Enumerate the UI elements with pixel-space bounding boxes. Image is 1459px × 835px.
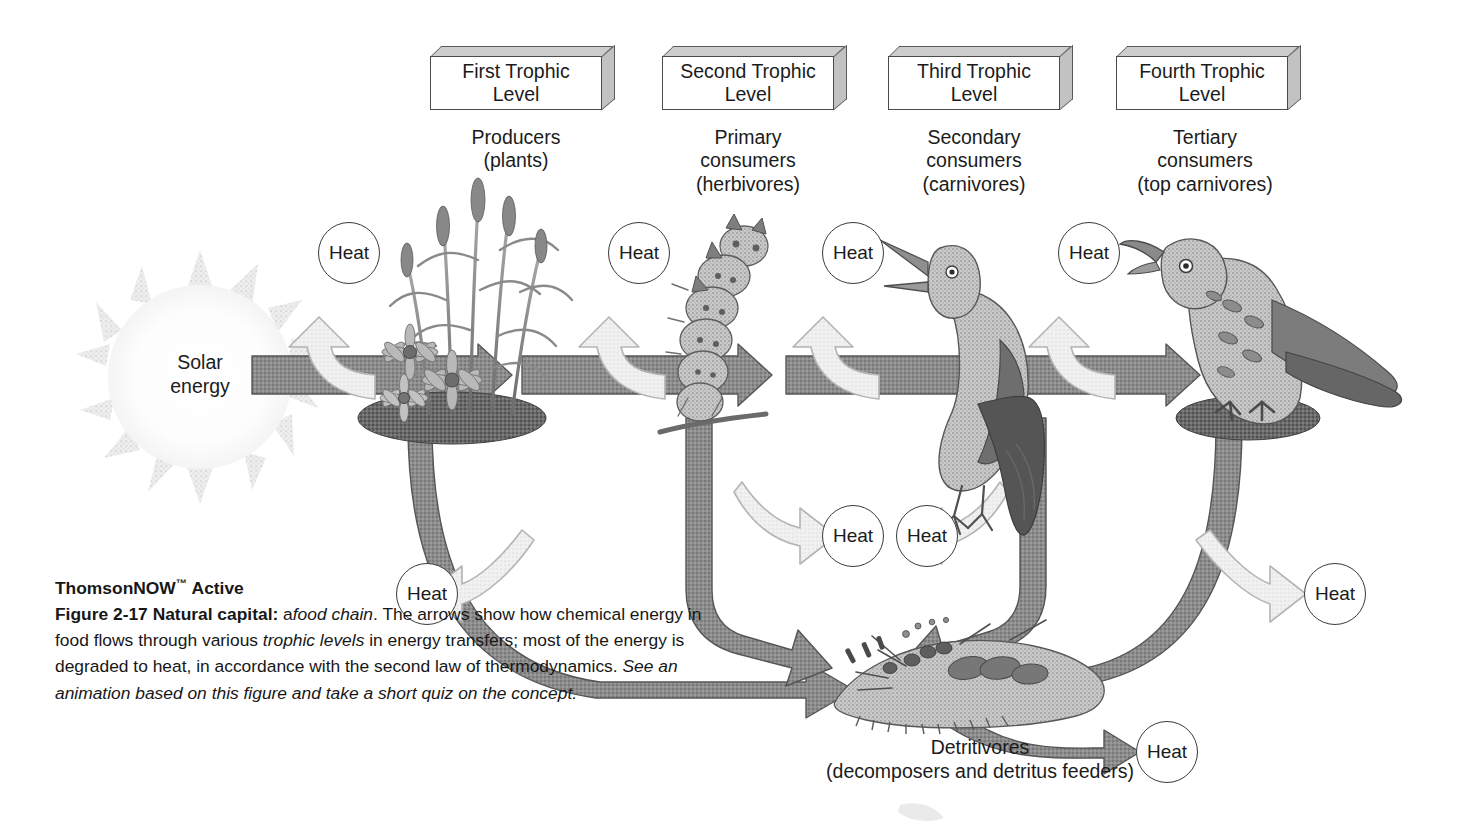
level-caption-line1: Primary: [638, 126, 858, 149]
caption-italic-trophic-levels: trophic levels: [263, 630, 365, 650]
trophic-box-line1: Third Trophic: [917, 60, 1031, 82]
heat-label: Heat: [619, 242, 659, 264]
thomsonnow-brand: ThomsonNOW: [55, 578, 176, 598]
heat-label: Heat: [1315, 583, 1355, 605]
level-caption-line1: Tertiary: [1090, 126, 1320, 149]
level-caption-producers: Producers (plants): [406, 126, 626, 173]
trophic-box-front-face: Fourth Trophic Level: [1116, 56, 1288, 110]
level-caption-line2: consumers: [864, 149, 1084, 172]
trademark-mark: ™: [176, 577, 187, 589]
heat-label: Heat: [833, 525, 873, 547]
trophic-box-side-face: [1060, 45, 1073, 110]
trophic-box-line1: First Trophic: [462, 60, 569, 82]
detritivores-label: Detritivores (decomposers and detritus f…: [760, 736, 1200, 784]
detritivores-line1: Detritivores: [760, 736, 1200, 760]
level-caption-line3: (carnivores): [864, 173, 1084, 196]
trophic-box-front-face: First Trophic Level: [430, 56, 602, 110]
solar-energy-line2: energy: [130, 375, 270, 399]
heat-bubble-detritus-left: Heat: [822, 505, 884, 567]
level-caption-line3: (herbivores): [638, 173, 858, 196]
heat-bubble-detritus-right: Heat: [896, 505, 958, 567]
level-caption-line2: consumers: [638, 149, 858, 172]
food-chain-figure: First Trophic Level Second Trophic Level…: [0, 0, 1459, 835]
figure-number: Figure 2-17: [55, 604, 148, 624]
heat-bubble-producers: Heat: [318, 222, 380, 284]
trophic-box-line1: Second Trophic: [680, 60, 816, 82]
caption-text-a: a: [278, 604, 293, 624]
trophic-box-line1: Fourth Trophic: [1139, 60, 1265, 82]
level-caption-line1: Producers: [406, 126, 626, 149]
trophic-box-side-face: [834, 45, 847, 110]
level-caption-primary-consumers: Primary consumers (herbivores): [638, 126, 858, 196]
caption-italic-food-chain: food chain: [293, 604, 373, 624]
trophic-box-line2: Level: [725, 83, 772, 105]
active-label: Active: [192, 578, 244, 598]
heat-label: Heat: [1069, 242, 1109, 264]
heat-arrow-detritus-left: [734, 482, 836, 564]
detritivores-line2: (decomposers and detritus feeders): [760, 760, 1200, 784]
trophic-box-side-face: [602, 45, 615, 110]
level-caption-line2: consumers: [1090, 149, 1320, 172]
trophic-box-front-face: Second Trophic Level: [662, 56, 834, 110]
detritivore-illustration: [834, 617, 1104, 734]
trophic-box-line2: Level: [1179, 83, 1226, 105]
trophic-box-line2: Level: [493, 83, 540, 105]
level-caption-secondary-consumers: Secondary consumers (carnivores): [864, 126, 1084, 196]
trophic-box-first: First Trophic Level: [430, 46, 602, 112]
solar-energy-line1: Solar: [130, 351, 270, 375]
trophic-box-line2: Level: [951, 83, 998, 105]
trophic-box-second: Second Trophic Level: [662, 46, 834, 112]
heat-bubble-lower-right: Heat: [1304, 563, 1366, 625]
heat-bubble-secondary: Heat: [822, 222, 884, 284]
solar-energy-label: Solar energy: [130, 351, 270, 399]
figure-caption: ThomsonNOW™ Active Figure 2-17 Natural c…: [55, 570, 715, 706]
caption-body: Figure 2-17 Natural capital: afood chain…: [55, 601, 715, 706]
heat-bubble-tertiary: Heat: [1058, 222, 1120, 284]
heat-label: Heat: [833, 242, 873, 264]
heat-label: Heat: [907, 525, 947, 547]
level-caption-tertiary-consumers: Tertiary consumers (top carnivores): [1090, 126, 1320, 196]
grass-and-flowers-illustration: [358, 178, 572, 444]
heat-label: Heat: [329, 242, 369, 264]
heat-bubble-primary: Heat: [608, 222, 670, 284]
caterpillar-illustration: [660, 214, 768, 432]
figure-title: Natural capital:: [153, 604, 279, 624]
hawk-illustration: [1120, 239, 1402, 440]
trophic-box-fourth: Fourth Trophic Level: [1116, 46, 1288, 112]
level-caption-line3: (top carnivores): [1090, 173, 1320, 196]
trophic-box-front-face: Third Trophic Level: [888, 56, 1060, 110]
level-caption-line2: (plants): [406, 149, 626, 172]
page-scan-artifact: [898, 803, 944, 821]
trophic-box-side-face: [1288, 45, 1301, 110]
caption-brand-line: ThomsonNOW™ Active: [55, 570, 715, 601]
level-caption-line1: Secondary: [864, 126, 1084, 149]
trophic-box-third: Third Trophic Level: [888, 46, 1060, 112]
